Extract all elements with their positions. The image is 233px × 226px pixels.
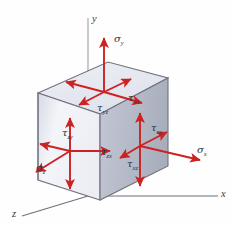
stress-element-figure: y x z σy τyx τyz τzy τzx σz τxy τxz σx bbox=[0, 0, 233, 226]
stress-cube-drawing bbox=[0, 0, 233, 226]
cube-body bbox=[38, 62, 168, 200]
